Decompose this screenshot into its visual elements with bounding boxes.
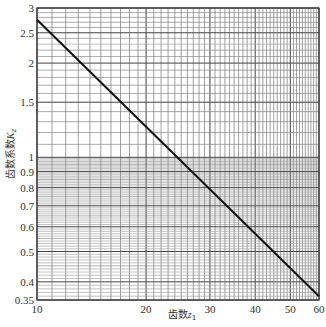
- plot-frame: [37, 8, 319, 300]
- y-tick-label: 2.5: [20, 27, 34, 39]
- y-tick-label: 2: [29, 57, 35, 69]
- y-tick-label: 0.8: [20, 182, 34, 194]
- y-tick-label: 1: [29, 151, 35, 163]
- x-tick-label: 60: [314, 303, 326, 315]
- y-tick-label: 0.9: [20, 166, 34, 178]
- x-axis-title: 齿数z1: [168, 308, 196, 322]
- x-tick-label: 50: [285, 303, 297, 315]
- chart: 0.350.40.50.60.70.80.911.522.53 10203040…: [0, 0, 326, 327]
- y-axis-tick-labels: 0.350.40.50.60.70.80.911.522.53: [15, 2, 35, 306]
- x-tick-label: 40: [250, 303, 262, 315]
- y-tick-label: 0.5: [20, 246, 34, 258]
- y-axis-title: 齿数系数Kz: [4, 129, 18, 180]
- kz-series-line: [37, 20, 319, 296]
- y-tick-label: 0.7: [20, 200, 34, 212]
- y-tick-label: 0.6: [20, 221, 34, 233]
- y-tick-label: 0.4: [20, 276, 34, 288]
- y-tick-label: 3: [29, 2, 35, 14]
- y-tick-label: 1.5: [20, 96, 34, 108]
- x-tick-label: 20: [141, 303, 153, 315]
- grid: [37, 8, 319, 300]
- x-tick-label: 30: [204, 303, 216, 315]
- x-tick-label: 10: [32, 303, 44, 315]
